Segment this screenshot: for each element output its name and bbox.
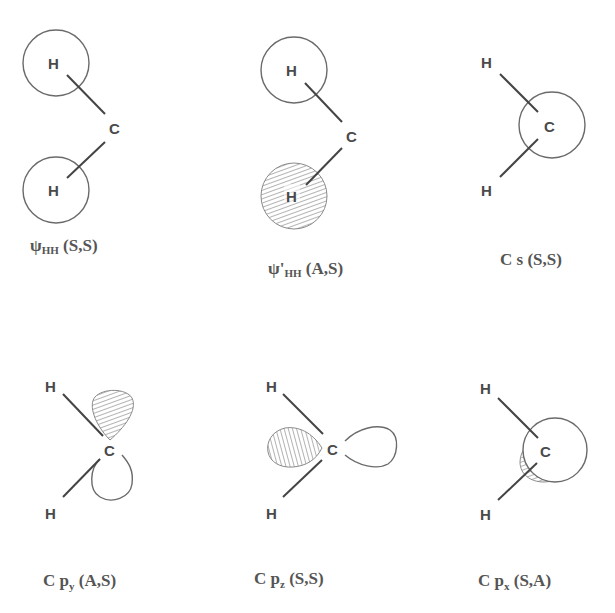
- atom-h-top: H: [481, 54, 492, 71]
- bond-ch-top: [305, 83, 342, 122]
- atom-c: C: [327, 441, 338, 458]
- caption-c-pz: C pz (S,S): [254, 569, 324, 590]
- bond-ch-bottom: [498, 463, 537, 500]
- panel-psi-hh: H C H ψHH (S,S): [23, 30, 120, 256]
- atom-c: C: [346, 128, 357, 145]
- atom-c: C: [104, 442, 115, 459]
- atom-c: C: [109, 120, 120, 137]
- atom-h-bottom: H: [48, 182, 59, 199]
- atom-h-bottom: H: [480, 506, 491, 523]
- caption-c-s: C s (S,S): [500, 250, 562, 269]
- bond-ch-bottom: [306, 148, 342, 185]
- atom-c: C: [540, 443, 551, 460]
- caption-psi-prime-hh: ψ'HH (A,S): [268, 259, 343, 279]
- atom-c: C: [544, 118, 555, 135]
- p-lobe-front-open: [523, 418, 587, 482]
- bond-ch-top: [500, 74, 538, 112]
- panel-c-pz: H C H C pz (S,S): [254, 378, 397, 590]
- caption-c-px: C px (S,A): [478, 571, 551, 592]
- caption-c-py: C py (A,S): [43, 571, 116, 592]
- panel-c-py: H C H C py (A,S): [43, 378, 133, 592]
- atom-h-bottom: H: [481, 182, 492, 199]
- atom-h-top: H: [286, 62, 297, 79]
- atom-h-top: H: [266, 378, 277, 395]
- bond-ch-top: [67, 75, 105, 114]
- panel-c-s: H C H C s (S,S): [481, 54, 585, 269]
- caption-psi-hh: ψHH (S,S): [30, 236, 98, 256]
- p-lobe-left-hatched: [268, 428, 322, 467]
- atom-h-top: H: [48, 55, 59, 72]
- panel-psi-prime-hh: H C H ψ'HH (A,S): [261, 37, 357, 279]
- atom-h-top: H: [45, 378, 56, 395]
- bond-ch-top: [498, 398, 538, 438]
- atom-h-top: H: [480, 380, 491, 397]
- p-lobe-right-open: [345, 427, 397, 467]
- atom-h-bottom: H: [45, 505, 56, 522]
- bond-ch-bottom: [67, 142, 105, 178]
- orbital-diagram: H C H ψHH (S,S) H C H ψ'HH (A,S) H C H C…: [0, 0, 615, 613]
- atom-h-bottom: H: [286, 188, 297, 205]
- panel-c-px: H C H C px (S,A): [478, 380, 587, 592]
- atom-h-bottom: H: [266, 505, 277, 522]
- bond-ch-bottom: [500, 139, 538, 177]
